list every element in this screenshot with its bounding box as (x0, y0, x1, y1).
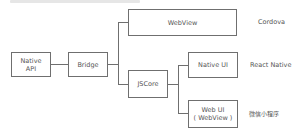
edge-jscore-trunk (178, 65, 179, 114)
edge-jscore-stub (168, 84, 178, 85)
node-web-ui: Web UI ( WebView ) (188, 100, 238, 128)
edge-bridge-trunk (118, 22, 119, 85)
node-web-ui-line1: Web UI (202, 106, 225, 114)
category-label-wechat-mini-program: 微信小程序 (249, 109, 279, 118)
edge-trunk-webview (118, 22, 128, 23)
node-jscore-label: JSCore (137, 80, 158, 88)
edge-bridge-stub (108, 64, 118, 65)
node-bridge-label: Bridge (77, 61, 98, 69)
edge-trunk-nativeui (178, 65, 188, 66)
edge-nativeapi-bridge (51, 64, 68, 65)
node-jscore: JSCore (128, 70, 168, 98)
node-native-api-line2: API (26, 65, 36, 73)
node-webview-label: WebView (168, 19, 198, 27)
node-bridge: Bridge (68, 52, 108, 77)
node-native-ui-label: Native UI (198, 61, 228, 69)
category-label-cordova: Cordova (258, 18, 285, 26)
category-label-react-native: React Native (250, 61, 291, 69)
cropped-caption-fragment (10, 0, 140, 3)
edge-trunk-webui (178, 113, 188, 114)
edge-trunk-jscore (118, 84, 128, 85)
node-webview: WebView (128, 9, 237, 36)
node-native-ui: Native UI (188, 52, 238, 78)
node-native-api: Native API (11, 52, 51, 77)
node-web-ui-line2: ( WebView ) (194, 114, 233, 122)
node-native-api-line1: Native (20, 57, 41, 65)
